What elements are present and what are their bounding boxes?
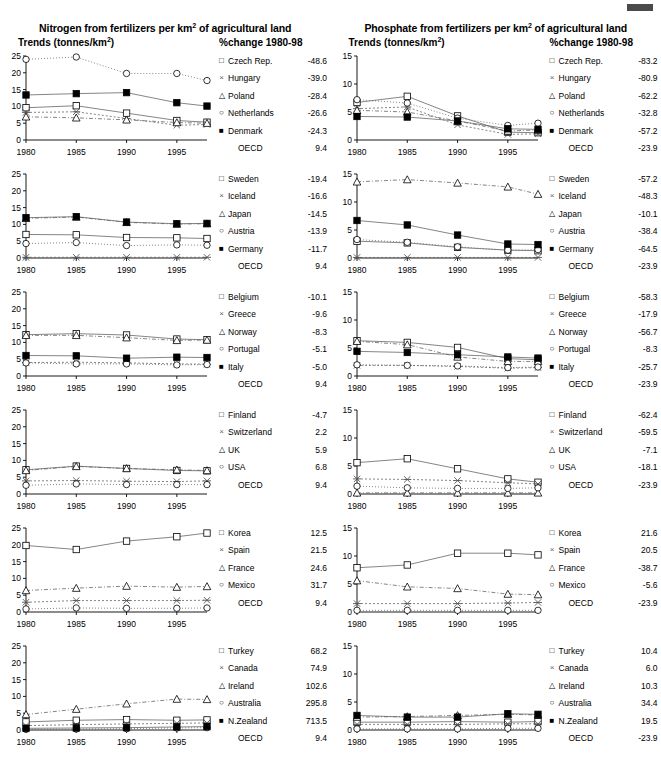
legend-change-value: -16.6 bbox=[294, 192, 327, 201]
legend-country-label: Hungary bbox=[228, 74, 294, 83]
chart-block: 05101520251980198519901995□Turkey68.2×Ca… bbox=[0, 638, 331, 756]
legend-change-value: -17.9 bbox=[625, 310, 658, 319]
legend-row-oecd: OECD-23.9 bbox=[546, 730, 658, 748]
svg-text:1985: 1985 bbox=[67, 619, 86, 629]
svg-text:1990: 1990 bbox=[117, 737, 136, 747]
legend-marker-open-circle-icon: ○ bbox=[546, 581, 559, 589]
legend-marker-open-square-icon: □ bbox=[215, 529, 228, 537]
legend-change-value: -26.6 bbox=[294, 109, 327, 118]
column-phosphate: Phosphate from fertilizers per km2 of ag… bbox=[331, 0, 661, 756]
legend-marker-open-square-icon: □ bbox=[546, 57, 559, 65]
legend-country-label: Netherlands bbox=[559, 109, 625, 118]
svg-text:10: 10 bbox=[342, 433, 352, 443]
legend-change-value: -64.5 bbox=[625, 245, 658, 254]
legend-row: ○Portugal-5.1 bbox=[215, 341, 327, 359]
legend-country-label: Belgium bbox=[228, 293, 294, 302]
svg-text:1990: 1990 bbox=[117, 619, 136, 629]
legend-change-value: -4.7 bbox=[294, 411, 327, 420]
legend-marker-open-circle-icon: ○ bbox=[215, 581, 228, 589]
svg-text:1990: 1990 bbox=[448, 501, 467, 511]
legend-change-value: -11.7 bbox=[294, 245, 327, 254]
legend-row-oecd: OECD9.4 bbox=[215, 594, 327, 612]
svg-text:0: 0 bbox=[16, 135, 21, 145]
svg-text:5: 5 bbox=[16, 472, 21, 482]
svg-text:1985: 1985 bbox=[397, 147, 416, 157]
legend-country-label: OECD bbox=[228, 262, 294, 271]
legend-change-value: 21.6 bbox=[625, 529, 658, 538]
chart-legend: □Turkey10.4×Canada6.0△Ireland10.3○Austra… bbox=[546, 638, 658, 756]
legend-country-label: Ireland bbox=[559, 682, 625, 691]
legend-change-value: 6.8 bbox=[294, 463, 327, 472]
legend-row: □Korea12.5 bbox=[215, 524, 327, 542]
svg-text:1985: 1985 bbox=[67, 265, 86, 275]
legend-row-oecd: OECD-23.9 bbox=[546, 258, 658, 276]
legend-marker-open-circle-icon: ○ bbox=[546, 463, 559, 471]
legend-change-value: 12.5 bbox=[294, 529, 327, 538]
legend-row: ×Spain21.5 bbox=[215, 542, 327, 560]
legend-row-oecd: OECD9.4 bbox=[215, 376, 327, 394]
legend-row: □Finland-4.7 bbox=[215, 406, 327, 424]
column-subhead-nitrogen: Trends (tonnes/km2) %change 1980-98 bbox=[18, 37, 313, 48]
legend-change-value: 9.4 bbox=[294, 144, 327, 153]
chart-plot: 05101520251980198519901995 bbox=[0, 520, 215, 638]
svg-text:1980: 1980 bbox=[347, 501, 366, 511]
legend-country-label: Czech Rep. bbox=[228, 57, 294, 66]
chart-plot: 0510151980198519901995 bbox=[331, 520, 546, 638]
column-title-main: Phosphate from fertilizers per km bbox=[364, 22, 528, 34]
legend-country-label: OECD bbox=[559, 734, 625, 743]
svg-text:15: 15 bbox=[12, 557, 22, 567]
svg-text:20: 20 bbox=[12, 304, 22, 314]
legend-change-value: -23.9 bbox=[625, 262, 658, 271]
legend-row-oecd: OECD9.4 bbox=[215, 258, 327, 276]
svg-text:20: 20 bbox=[12, 540, 22, 550]
column-header-phosphate: Phosphate from fertilizers per km2 of ag… bbox=[331, 0, 661, 48]
legend-change-value: -5.6 bbox=[625, 581, 658, 590]
legend-marker-cross-icon: × bbox=[546, 192, 559, 200]
legend-country-label: OECD bbox=[559, 599, 625, 608]
legend-marker-open-square-icon: □ bbox=[546, 411, 559, 419]
svg-text:1980: 1980 bbox=[17, 501, 36, 511]
legend-change-value: 10.3 bbox=[625, 682, 658, 691]
legend-change-value: -19.4 bbox=[294, 175, 327, 184]
legend-row: ■N.Zealand19.5 bbox=[546, 712, 658, 730]
legend-change-value: -57.2 bbox=[625, 127, 658, 136]
legend-change-value: 68.2 bbox=[294, 647, 327, 656]
legend-marker-open-triangle-icon: △ bbox=[215, 92, 228, 100]
legend-row: ×Canada74.9 bbox=[215, 660, 327, 678]
column-title-nitrogen: Nitrogen from fertilizers per km2 of agr… bbox=[0, 22, 331, 34]
legend-country-label: Germany bbox=[559, 245, 625, 254]
legend-row: ×Greece-9.6 bbox=[215, 306, 327, 324]
svg-text:1990: 1990 bbox=[448, 619, 467, 629]
svg-text:1995: 1995 bbox=[498, 265, 517, 275]
svg-text:1980: 1980 bbox=[17, 383, 36, 393]
svg-text:1990: 1990 bbox=[117, 501, 136, 511]
legend-row-oecd: OECD-23.9 bbox=[546, 594, 658, 612]
chart-block: 0510151980198519901995□Sweden-57.2×Icela… bbox=[331, 166, 661, 284]
legend-country-label: Czech Rep. bbox=[559, 57, 625, 66]
legend-marker-open-triangle-icon: △ bbox=[546, 682, 559, 690]
chart-plot: 0510151980198519901995 bbox=[331, 48, 546, 166]
legend-country-label: Canada bbox=[559, 664, 625, 673]
svg-text:1985: 1985 bbox=[397, 501, 416, 511]
svg-text:1980: 1980 bbox=[347, 619, 366, 629]
legend-country-label: Iceland bbox=[559, 192, 625, 201]
legend-country-label: Japan bbox=[228, 210, 294, 219]
svg-text:1980: 1980 bbox=[17, 147, 36, 157]
legend-country-label: UK bbox=[559, 446, 625, 455]
legend-marker-open-square-icon: □ bbox=[546, 647, 559, 655]
legend-row: ○USA6.8 bbox=[215, 459, 327, 477]
legend-row: ×Iceland-48.3 bbox=[546, 188, 658, 206]
legend-marker-cross-icon: × bbox=[546, 310, 559, 318]
svg-text:1995: 1995 bbox=[498, 501, 517, 511]
legend-row: △Ireland10.3 bbox=[546, 677, 658, 695]
legend-change-value: -8.3 bbox=[625, 345, 658, 354]
column-title-tail: of agricultural land bbox=[532, 22, 627, 34]
legend-row: ○Austria-38.4 bbox=[546, 223, 658, 241]
svg-text:5: 5 bbox=[347, 107, 352, 117]
svg-text:10: 10 bbox=[12, 455, 22, 465]
chart-legend: □Belgium-10.1×Greece-9.6△Norway-8.3○Port… bbox=[215, 284, 327, 402]
legend-change-value: -38.4 bbox=[625, 227, 658, 236]
legend-country-label: Austria bbox=[559, 227, 625, 236]
legend-change-value: 9.4 bbox=[294, 599, 327, 608]
legend-country-label: Turkey bbox=[228, 647, 294, 656]
